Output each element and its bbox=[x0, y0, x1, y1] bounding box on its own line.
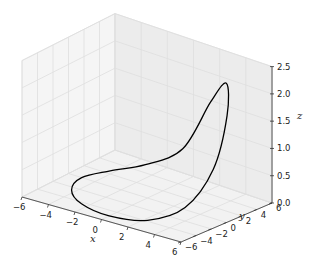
y-axis-label: y bbox=[238, 210, 245, 221]
y-tick-label: −4 bbox=[200, 236, 213, 246]
z-tick-label: 0.0 bbox=[277, 198, 291, 208]
x-tick-mark bbox=[127, 227, 128, 230]
x-tick-label: −4 bbox=[40, 210, 53, 220]
z-tick-label: 1.0 bbox=[277, 143, 291, 153]
y-tick-label: 4 bbox=[261, 210, 266, 220]
y-tick-label: −2 bbox=[215, 229, 228, 239]
z-tick-label: 2.5 bbox=[277, 62, 291, 72]
y-tick-label: 0 bbox=[231, 223, 236, 233]
x-tick-mark bbox=[48, 205, 49, 208]
x-tick-label: 2 bbox=[119, 232, 124, 242]
x-tick-mark bbox=[21, 197, 22, 200]
x-tick-label: 4 bbox=[146, 240, 151, 250]
x-tick-mark bbox=[154, 235, 155, 238]
x-tick-mark bbox=[101, 220, 102, 223]
z-tick-label: 1.5 bbox=[277, 116, 291, 126]
y-tick-label: −6 bbox=[185, 242, 198, 252]
y-tick-label: 2 bbox=[246, 216, 251, 226]
x-tick-label: −2 bbox=[66, 217, 79, 227]
chart: −6−4−20246−6−4−202460.00.51.01.52.02.5 x… bbox=[0, 0, 314, 264]
z-tick-label: 2.0 bbox=[277, 89, 291, 99]
z-axis-label: z bbox=[296, 110, 303, 121]
x-axis-label: x bbox=[90, 233, 96, 244]
x-tick-label: 6 bbox=[172, 247, 177, 257]
x-tick-mark bbox=[74, 212, 75, 215]
z-tick-label: 0.5 bbox=[277, 171, 291, 181]
x-tick-label: −6 bbox=[13, 202, 26, 212]
